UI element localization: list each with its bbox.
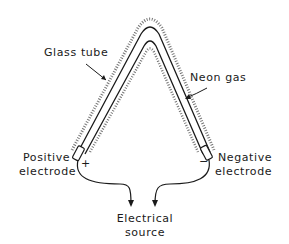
arrowhead-negative — [152, 200, 158, 207]
label-electrical-source-1: Electrical — [113, 213, 177, 225]
label-negative-electrode-2: electrode — [215, 166, 272, 178]
positive-symbol: + — [81, 158, 91, 170]
negative-symbol: − — [199, 156, 209, 168]
label-glass-tube: Glass tube — [44, 47, 108, 59]
arrowhead-positive — [128, 200, 134, 207]
label-neon-gas: Neon gas — [190, 72, 246, 84]
label-negative-electrode-1: Negative — [218, 152, 272, 164]
label-positive-electrode-1: Positive — [23, 152, 70, 164]
neon-tube-diagram: Glass tube Neon gas Positive electrode +… — [0, 0, 289, 244]
glass-tube-leader-arrow — [101, 75, 106, 80]
diagram-drawing — [0, 0, 289, 244]
label-positive-electrode-2: electrode — [19, 166, 76, 178]
label-electrical-source-2: source — [113, 227, 177, 239]
